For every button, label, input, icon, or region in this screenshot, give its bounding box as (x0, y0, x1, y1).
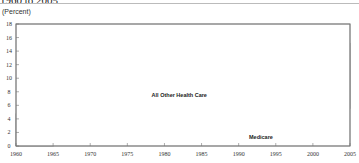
plot-frame (16, 24, 350, 146)
stacked-area-chart: 0246810121416181960196519701975198019851… (0, 0, 359, 163)
y-tick-label: 16 (6, 35, 12, 41)
y-tick-label: 12 (6, 62, 12, 68)
y-tick-label: 4 (8, 116, 11, 122)
x-tick-label: 1970 (84, 151, 96, 157)
y-tick-label: 10 (6, 75, 12, 81)
y-tick-label: 8 (8, 89, 11, 95)
x-tick-label: 2000 (307, 151, 319, 157)
y-tick-label: 2 (8, 129, 11, 135)
y-tick-label: 18 (6, 21, 12, 27)
x-tick-label: 1975 (121, 151, 133, 157)
x-tick-label: 1960 (10, 151, 22, 157)
x-tick-label: 1985 (196, 151, 208, 157)
x-tick-label: 1980 (158, 151, 170, 157)
y-tick-label: 0 (8, 143, 11, 149)
series-label-all-other-health-care: All Other Health Care (152, 92, 207, 98)
x-tick-label: 2005 (344, 151, 356, 157)
x-tick-label: 1990 (233, 151, 245, 157)
x-tick-label: 1965 (47, 151, 59, 157)
x-tick-label: 1995 (270, 151, 282, 157)
chart-axes: 0246810121416181960196519701975198019851… (6, 21, 356, 157)
y-tick-label: 14 (6, 48, 12, 54)
series-label-medicare: Medicare (249, 134, 273, 140)
y-tick-label: 6 (8, 102, 11, 108)
series-label-medicaid: Medicaid (316, 117, 340, 123)
